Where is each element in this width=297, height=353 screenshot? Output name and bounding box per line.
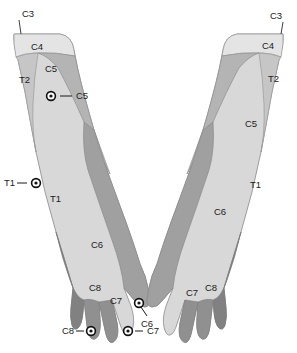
label-left-c5: C5	[45, 63, 57, 74]
label-left-c8: C8	[89, 282, 101, 293]
left-band-c7	[84, 299, 118, 342]
label-right-c8: C8	[205, 282, 217, 293]
label-right-c4: C4	[262, 40, 274, 51]
label-right-c7: C7	[186, 287, 198, 298]
left-c3-leader	[19, 20, 21, 34]
label-right-t1: T1	[250, 179, 261, 190]
left-upper-limb: C3 C4 C5 T2 T1 C6 C8 C7 C5 T1	[4, 8, 159, 343]
left-t1-marker-dot	[34, 181, 37, 184]
label-right-c6: C6	[214, 206, 226, 217]
left-c6-marker-dot	[137, 301, 140, 304]
right-upper-limb: C3 C4 T2 C5 T1 C6 C7 C8	[147, 10, 283, 343]
label-left-marker-c7: C7	[147, 325, 159, 336]
label-left-marker-c5: C5	[76, 90, 88, 101]
label-left-c6: C6	[91, 239, 103, 250]
left-c5-marker-dot	[49, 94, 52, 97]
label-right-c3: C3	[270, 10, 282, 21]
label-left-marker-t1: T1	[4, 177, 15, 188]
label-left-c7: C7	[110, 295, 122, 306]
label-left-c4: C4	[31, 41, 43, 52]
label-right-c5: C5	[245, 118, 257, 129]
label-left-c3: C3	[22, 8, 34, 19]
dermatome-illustration: C3 C4 C5 T2 T1 C6 C8 C7 C5 T1	[0, 0, 297, 353]
left-c6-leader	[141, 307, 147, 316]
right-band-c7	[179, 299, 213, 342]
label-left-t1: T1	[50, 193, 61, 204]
label-left-marker-c8: C8	[62, 325, 74, 336]
figure-caption	[0, 344, 297, 353]
left-test-point-t1: T1	[4, 177, 40, 188]
left-c8-marker-dot	[89, 329, 92, 332]
left-c7-marker-dot	[126, 329, 129, 332]
dermatome-figure: C3 C4 C5 T2 T1 C6 C8 C7 C5 T1	[0, 0, 297, 353]
right-c3-leader	[281, 22, 283, 34]
label-left-t2: T2	[19, 74, 30, 85]
label-right-t2: T2	[268, 73, 279, 84]
